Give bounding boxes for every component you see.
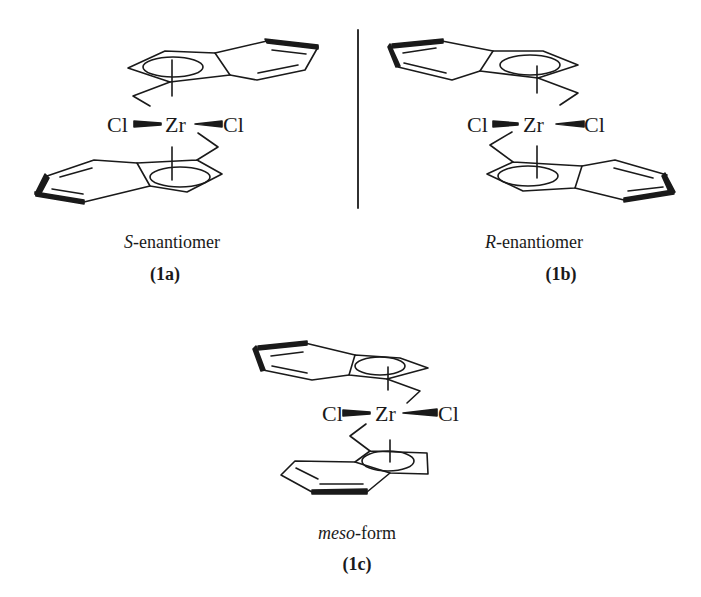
aromatic-ring-circle xyxy=(362,451,414,471)
aromatic-ring-circle xyxy=(150,167,210,187)
zirconium-1a: Zr xyxy=(165,112,186,137)
ethylene-bridge xyxy=(538,78,578,105)
zirconium-1b: Zr xyxy=(523,112,544,137)
upper-indenyl-ligand xyxy=(388,39,578,105)
zr-cl-wedge-left xyxy=(134,121,161,127)
paren-close: ) xyxy=(174,264,180,284)
stereo-descriptor: S xyxy=(124,232,133,252)
wedge-bond xyxy=(624,190,674,202)
chlorine-right-1a: Cl xyxy=(223,112,244,137)
ethylene-bridge xyxy=(133,82,170,106)
aromatic-ring-circle xyxy=(500,55,560,75)
aromatic-ring-circle xyxy=(355,357,405,375)
chlorine-right-1b: Cl xyxy=(584,112,605,137)
figure-canvas: Cl Zr Cl Cl Zr Cl Cl Zr Cl xyxy=(0,0,701,597)
zr-cl-wedge-right xyxy=(195,121,222,127)
ethylene-bridge xyxy=(490,132,513,162)
caption-1c: meso-form xyxy=(318,523,396,544)
caption-1b: R-enantiomer xyxy=(485,232,583,253)
compound-label-1b: (1b) xyxy=(545,264,576,285)
zr-cl-wedge-right xyxy=(403,409,437,416)
chlorine-left-1c: Cl xyxy=(322,401,343,426)
compound-number: 1a xyxy=(156,264,174,284)
ethylene-bridge xyxy=(350,424,370,451)
paren-close: ) xyxy=(366,554,372,574)
upper-indenyl-ligand xyxy=(128,39,318,106)
caption-1a: S-enantiomer xyxy=(124,232,220,253)
lower-indenyl-ligand xyxy=(487,132,675,202)
compound-number: 1c xyxy=(349,554,366,574)
upper-indenyl-ligand xyxy=(253,341,428,403)
caption-text: -enantiomer xyxy=(496,232,583,252)
atom-labels-1a: Cl Zr Cl xyxy=(107,112,244,137)
stereo-descriptor: meso xyxy=(318,523,355,543)
atom-labels-1c: Cl Zr Cl xyxy=(322,401,459,426)
ethylene-bridge xyxy=(387,379,420,403)
lower-indenyl-ligand xyxy=(35,133,222,204)
zr-cl-wedge-right xyxy=(556,121,584,127)
chlorine-left-1a: Cl xyxy=(107,112,128,137)
wedge-bond xyxy=(312,489,367,494)
compound-number: 1b xyxy=(551,264,570,284)
ethylene-bridge xyxy=(197,133,218,160)
paren-close: ) xyxy=(571,264,577,284)
wedge-bond xyxy=(258,341,307,350)
atom-labels-1b: Cl Zr Cl xyxy=(467,112,605,137)
zirconium-1c: Zr xyxy=(375,401,396,426)
caption-text: -form xyxy=(355,523,396,543)
chlorine-right-1c: Cl xyxy=(438,401,459,426)
structure-1c xyxy=(253,341,437,494)
wedge-bond xyxy=(35,192,84,204)
caption-text: -enantiomer xyxy=(133,232,220,252)
stereo-descriptor: R xyxy=(485,232,496,252)
aromatic-ring-circle xyxy=(498,166,558,186)
aromatic-ring-circle xyxy=(143,57,203,77)
zr-cl-wedge-left xyxy=(343,410,370,416)
chlorine-left-1b: Cl xyxy=(467,112,488,137)
compound-label-1c: (1c) xyxy=(343,554,372,575)
lower-indenyl-ligand xyxy=(281,424,428,494)
wedge-bond xyxy=(392,39,443,48)
zr-cl-wedge-left xyxy=(493,121,518,127)
wedge-bond xyxy=(265,39,318,49)
compound-label-1a: (1a) xyxy=(150,264,180,285)
